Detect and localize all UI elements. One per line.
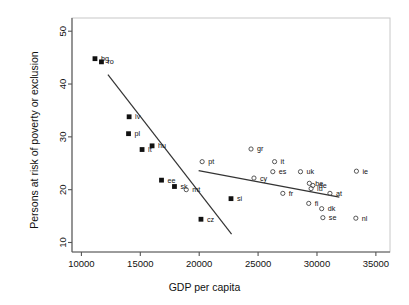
point-label-it: it bbox=[281, 157, 285, 166]
data-point-gr bbox=[249, 147, 253, 151]
x-tick-label: 35000 bbox=[363, 258, 389, 269]
point-label-se: se bbox=[329, 213, 337, 222]
data-point-se bbox=[321, 216, 325, 220]
x-axis-title: GDP per capita bbox=[0, 281, 409, 293]
point-label-uk: uk bbox=[306, 167, 314, 176]
regression-line-new-member-states bbox=[108, 75, 232, 235]
data-point-ie bbox=[354, 169, 358, 173]
data-point-fr bbox=[281, 191, 285, 195]
point-label-ro: ro bbox=[107, 57, 113, 66]
data-point-lt bbox=[140, 147, 145, 152]
data-point-bg bbox=[93, 56, 98, 61]
point-label-pt: pt bbox=[208, 157, 214, 166]
x-tick-label: 10000 bbox=[68, 258, 94, 269]
data-point-pt bbox=[200, 160, 204, 164]
point-label-mt: mt bbox=[192, 185, 200, 194]
point-label-lu: lu bbox=[317, 184, 323, 193]
data-point-pl bbox=[126, 131, 131, 136]
point-label-gr: gr bbox=[257, 144, 264, 153]
point-label-si: si bbox=[237, 194, 243, 203]
data-point-ro bbox=[99, 59, 104, 64]
point-label-es: es bbox=[279, 167, 287, 176]
y-axis-title: Persons at risk of poverty or exclusion bbox=[28, 20, 40, 260]
data-point-uk bbox=[298, 170, 302, 174]
point-label-ee: ee bbox=[168, 176, 176, 185]
point-label-fr: fr bbox=[289, 189, 294, 198]
point-label-cy: cy bbox=[260, 174, 268, 183]
point-label-dk: dk bbox=[328, 204, 336, 213]
plot-canvas: 1000015000200002500030000350001020304050… bbox=[0, 0, 409, 305]
data-point-fi bbox=[307, 201, 311, 205]
y-tick-label: 50 bbox=[58, 26, 69, 37]
x-tick-label: 30000 bbox=[304, 258, 330, 269]
x-tick-label: 25000 bbox=[245, 258, 271, 269]
plot-frame bbox=[72, 18, 390, 252]
x-tick-label: 20000 bbox=[186, 258, 212, 269]
point-label-hu: hu bbox=[158, 141, 166, 150]
point-label-lv: lv bbox=[135, 112, 141, 121]
data-point-ee bbox=[159, 178, 164, 183]
data-point-dk bbox=[320, 207, 324, 211]
data-point-sk bbox=[172, 184, 177, 189]
data-point-cy bbox=[252, 176, 256, 180]
y-tick-label: 10 bbox=[58, 237, 69, 248]
point-label-ie: ie bbox=[362, 167, 368, 176]
point-label-nl: nl bbox=[362, 214, 368, 223]
data-point-nl bbox=[354, 216, 358, 220]
x-tick-label: 15000 bbox=[127, 258, 153, 269]
data-point-es bbox=[271, 170, 275, 174]
data-point-cz bbox=[199, 217, 204, 222]
y-tick-label: 20 bbox=[58, 184, 69, 195]
data-point-si bbox=[229, 196, 234, 201]
data-point-hu bbox=[150, 143, 155, 148]
point-label-pl: pl bbox=[135, 129, 141, 138]
y-tick-label: 40 bbox=[58, 79, 69, 90]
scatter-chart-figure: 1000015000200002500030000350001020304050… bbox=[0, 0, 409, 305]
data-point-it bbox=[272, 160, 276, 164]
y-tick-label: 30 bbox=[58, 132, 69, 143]
point-label-fi: fi bbox=[315, 199, 319, 208]
point-label-at: at bbox=[336, 189, 342, 198]
data-point-lv bbox=[127, 114, 132, 119]
point-label-cz: cz bbox=[207, 215, 215, 224]
